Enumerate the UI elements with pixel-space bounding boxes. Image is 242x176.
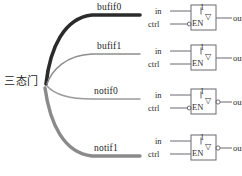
pin-out-notif0: out	[233, 97, 242, 107]
pin-in-bufif1: in	[155, 46, 162, 56]
body-label-notif1: 1	[200, 132, 204, 142]
pin-in-notif0: in	[155, 90, 162, 100]
pin-ctrl-notif0: ctrl	[148, 103, 159, 113]
branch-label-bufif1: bufif1	[97, 41, 121, 51]
tristate-marker-notif0: ▽	[205, 96, 211, 105]
body-label-notif0: 1	[200, 86, 204, 96]
enable-label-bufif1: EN	[192, 58, 203, 68]
tristate-marker-bufif0: ▽	[205, 12, 211, 21]
branch-label-notif0: notif0	[94, 86, 118, 96]
enable-label-bufif0: EN	[192, 18, 203, 28]
pin-in-bufif0: in	[155, 6, 162, 16]
enable-label-notif1: EN	[192, 148, 203, 158]
output-bubble-notif1	[216, 146, 220, 150]
pin-ctrl-notif1: ctrl	[148, 149, 159, 159]
pin-ctrl-bufif1: ctrl	[148, 59, 159, 69]
pin-in-notif1: in	[155, 136, 162, 146]
pin-out-bufif1: out	[233, 53, 242, 63]
pin-out-bufif0: out	[233, 13, 242, 23]
output-bubble-notif0	[216, 100, 220, 104]
root-label-tristate-gate: 三态门	[4, 72, 39, 88]
pin-out-notif1: out	[233, 143, 242, 153]
body-label-bufif1: 1	[200, 42, 204, 52]
tristate-marker-notif1: ▽	[205, 142, 211, 151]
enable-label-notif0: EN	[192, 102, 203, 112]
branch-label-notif1: notif1	[94, 143, 118, 153]
tristate-marker-bufif1: ▽	[205, 52, 211, 61]
branch-label-bufif0: bufif0	[97, 2, 121, 12]
body-label-bufif0: 1	[200, 2, 204, 12]
diagram-canvas: 三态门 bufif0 bufif1 notif0 notif1 in ctrl …	[0, 0, 242, 176]
pin-ctrl-bufif0: ctrl	[148, 19, 159, 29]
